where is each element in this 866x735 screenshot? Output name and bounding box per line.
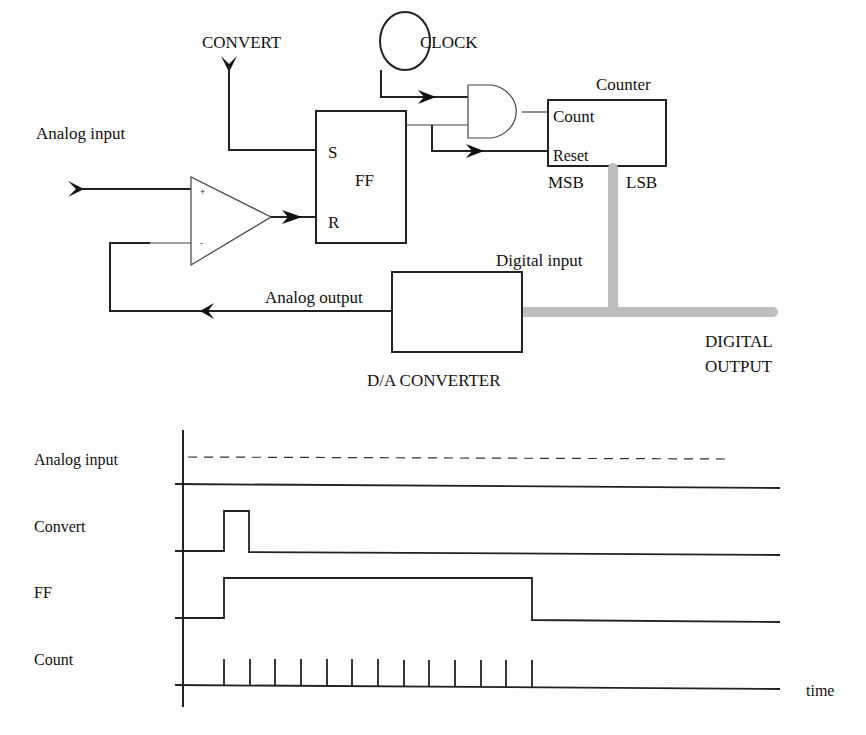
convert-wire [229,66,316,150]
digital-input-label: Digital input [496,251,583,270]
counter-reset-port: Reset [553,147,589,164]
counter-label: Counter [596,75,651,94]
ff-reset-port: R [328,213,340,232]
counter-count-port: Count [553,107,595,126]
comparator-plus: + [200,187,205,197]
count-pulses [224,659,532,687]
ff-set-port: S [328,143,337,162]
time-axis-label: time [806,682,834,699]
timing-label-analog-input: Analog input [34,451,119,469]
dac-box [392,272,522,352]
count-baseline [175,685,780,689]
timing-label-convert: Convert [34,518,86,535]
ff-pulse [175,578,780,622]
ramp-adc-diagram: CONVERT CLOCK S FF R Counter Count Reset… [0,0,866,735]
analog-input-label: Analog input [36,124,126,143]
analog-output-label: Analog output [265,288,363,307]
msb-label: MSB [548,173,584,192]
lsb-label: LSB [626,173,657,192]
analog-input-level-dashed [188,457,730,459]
and-gate [468,85,516,138]
convert-pulse [175,511,780,555]
digital-output-label-2: OUTPUT [705,357,773,376]
timing-label-count: Count [34,651,74,668]
comparator-minus: - [200,238,203,248]
convert-label: CONVERT [202,33,282,52]
clock-label: CLOCK [420,33,478,52]
timing-label-ff: FF [34,584,52,601]
analog-input-baseline [175,484,780,488]
digital-output-label-1: DIGITAL [705,332,773,351]
dac-label: D/A CONVERTER [367,371,501,390]
ff-label: FF [355,171,374,190]
